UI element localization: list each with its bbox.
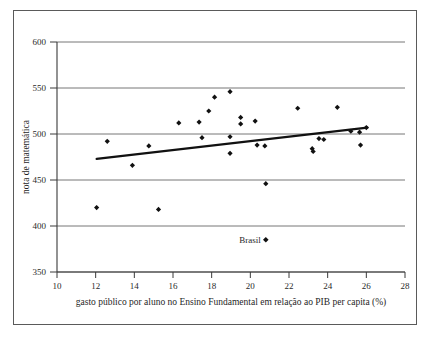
y-tick-label-550: 550 [33, 83, 47, 93]
x-tick-label-28: 28 [401, 281, 411, 291]
data-point [94, 205, 99, 210]
y-tick-label-450: 450 [33, 175, 47, 185]
trend-line [97, 128, 368, 159]
data-point [227, 151, 232, 156]
data-point [238, 115, 243, 120]
x-tick-label-22: 22 [285, 281, 294, 291]
data-point [262, 143, 267, 148]
data-point [130, 163, 135, 168]
x-tick-label-26: 26 [362, 281, 372, 291]
data-point [105, 139, 110, 144]
data-point [316, 136, 321, 141]
x-tick-label-18: 18 [207, 281, 217, 291]
annotation-marker-brasil [263, 237, 269, 243]
data-point [321, 137, 326, 142]
y-tick-label-500: 500 [33, 129, 47, 139]
data-point [176, 120, 181, 125]
data-point [255, 142, 260, 147]
data-point [238, 121, 243, 126]
data-point [199, 135, 204, 140]
x-tick-label-10: 10 [53, 281, 63, 291]
data-point [206, 108, 211, 113]
data-point [146, 143, 151, 148]
data-point [295, 106, 300, 111]
y-tick-label-600: 600 [33, 37, 47, 47]
x-tick-label-16: 16 [169, 281, 179, 291]
x-axis-title: gasto público por aluno no Ensino Fundam… [76, 297, 387, 308]
annotation-label-brasil: Brasil [239, 235, 261, 245]
data-point [253, 119, 258, 124]
annotations: Brasil [239, 235, 268, 245]
data-point [197, 119, 202, 124]
data-point [212, 95, 217, 100]
data-point [227, 134, 232, 139]
data-point [335, 105, 340, 110]
x-tick-label-20: 20 [246, 281, 256, 291]
y-axis-ticks: 350400450500550600 [33, 37, 58, 277]
scatter-chart: 350400450500550600 10121416182022242628 … [0, 0, 432, 341]
figure-container: 350400450500550600 10121416182022242628 … [0, 0, 432, 341]
x-axis-ticks: 10121416182022242628 [53, 272, 411, 291]
x-tick-label-14: 14 [130, 281, 140, 291]
x-tick-label-12: 12 [91, 281, 100, 291]
data-point [358, 142, 363, 147]
data-point [227, 89, 232, 94]
y-tick-label-350: 350 [33, 267, 47, 277]
x-tick-label-24: 24 [323, 281, 333, 291]
y-axis-title: nota de matemática [21, 119, 31, 194]
data-point [156, 207, 161, 212]
y-tick-label-400: 400 [33, 221, 47, 231]
data-point [263, 181, 268, 186]
data-points [94, 89, 369, 212]
